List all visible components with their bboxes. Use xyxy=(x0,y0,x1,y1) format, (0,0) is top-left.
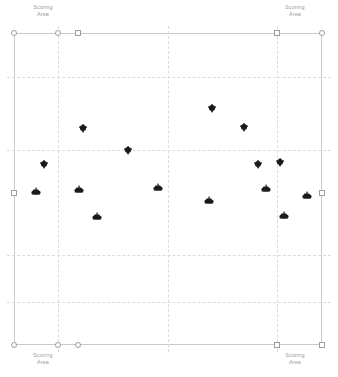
field-node-circle-icon[interactable] xyxy=(319,30,325,36)
robot-icon[interactable] xyxy=(237,121,251,133)
robot-icon[interactable] xyxy=(90,211,104,223)
field-node-circle-icon[interactable] xyxy=(55,30,61,36)
field-node-square-icon[interactable] xyxy=(319,342,325,348)
grid-line-horizontal xyxy=(7,77,331,78)
field-node-circle-icon[interactable] xyxy=(11,30,17,36)
field-node-square-icon[interactable] xyxy=(274,30,280,36)
robot-icon[interactable] xyxy=(151,182,165,194)
grid-line-vertical xyxy=(58,26,59,352)
robot-icon[interactable] xyxy=(277,210,291,222)
field-node-square-icon[interactable] xyxy=(274,342,280,348)
grid-line-vertical xyxy=(277,26,278,352)
robot-icon[interactable] xyxy=(121,144,135,156)
robot-icon[interactable] xyxy=(76,122,90,134)
robot-icon[interactable] xyxy=(259,183,273,195)
field-node-circle-icon[interactable] xyxy=(11,342,17,348)
field-node-circle-icon[interactable] xyxy=(55,342,61,348)
robot-icon[interactable] xyxy=(202,195,216,207)
grid-line-vertical xyxy=(168,26,169,352)
grid-line-horizontal xyxy=(7,255,331,256)
robot-icon[interactable] xyxy=(72,184,86,196)
scoring-area-label-bl: Scoring Area xyxy=(20,352,66,366)
robot-icon[interactable] xyxy=(251,158,265,170)
robot-icon[interactable] xyxy=(37,158,51,170)
robot-icon[interactable] xyxy=(273,156,287,168)
robot-icon[interactable] xyxy=(205,102,219,114)
field-node-square-icon[interactable] xyxy=(319,190,325,196)
robot-icon[interactable] xyxy=(29,186,43,198)
field-node-circle-icon[interactable] xyxy=(75,342,81,348)
scoring-area-label-tr: Scoring Area xyxy=(272,4,318,18)
field-node-square-icon[interactable] xyxy=(11,190,17,196)
grid-line-horizontal xyxy=(7,302,331,303)
competition-field-view: Scoring AreaScoring AreaScoring AreaScor… xyxy=(0,0,338,377)
robot-icon[interactable] xyxy=(300,190,314,202)
field-node-square-icon[interactable] xyxy=(75,30,81,36)
grid-line-horizontal xyxy=(7,150,331,151)
scoring-area-label-tl: Scoring Area xyxy=(20,4,66,18)
scoring-area-label-br: Scoring Area xyxy=(272,352,318,366)
